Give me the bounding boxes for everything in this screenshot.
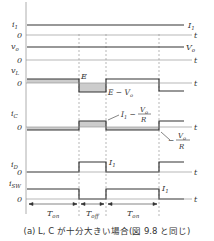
svg-text:vL: vL xyxy=(11,66,20,76)
waveform-iC: iC 0 t I1 − Vo R − Vo R xyxy=(11,106,198,151)
interval-arrows xyxy=(29,203,157,206)
svg-text:t: t xyxy=(194,195,198,204)
svg-text:I1: I1 xyxy=(161,184,169,194)
svg-text:0: 0 xyxy=(17,31,22,40)
svg-text:vo: vo xyxy=(11,42,20,52)
svg-text:Vo: Vo xyxy=(178,132,186,141)
figure-caption: (a) L, C が十分大きい場合(図 9.8 と同じ) xyxy=(0,224,214,236)
svg-text:R: R xyxy=(140,116,147,124)
i1-label: i1 xyxy=(12,20,18,30)
svg-text:−: − xyxy=(168,136,174,145)
waveform-vL: vL 0 t E E − Vo xyxy=(11,66,198,98)
interval-ton-1: Ton xyxy=(47,209,60,219)
svg-text:0: 0 xyxy=(17,168,22,177)
svg-text:I1: I1 xyxy=(187,21,195,31)
svg-text:0: 0 xyxy=(17,56,22,65)
svg-text:0: 0 xyxy=(17,79,22,88)
svg-text:iC: iC xyxy=(11,109,19,119)
svg-text:E: E xyxy=(80,72,87,81)
svg-text:t: t xyxy=(194,31,198,40)
svg-text:R: R xyxy=(178,143,185,151)
svg-text:E − Vo: E − Vo xyxy=(107,88,133,98)
waveform-i1: i1 I1 0 t xyxy=(12,20,198,40)
svg-text:0: 0 xyxy=(17,195,22,204)
svg-text:0: 0 xyxy=(17,123,22,132)
svg-text:t: t xyxy=(194,123,198,132)
waveform-iSW: iSW 0 t I1 xyxy=(9,179,198,204)
svg-text:Vo: Vo xyxy=(186,43,196,53)
svg-text:iSW: iSW xyxy=(9,179,22,189)
svg-text:Vo: Vo xyxy=(140,106,148,115)
svg-text:t: t xyxy=(194,79,198,88)
svg-text:I1 −: I1 − xyxy=(120,110,136,120)
waveform-iD: iD 0 t I1 xyxy=(11,158,198,177)
interval-toff: Toff xyxy=(86,209,100,220)
waveform-vo: vo Vo 0 t xyxy=(11,42,198,65)
svg-text:I1: I1 xyxy=(108,158,116,168)
interval-ton-2: Ton xyxy=(127,209,140,219)
waveform-diagram: i1 I1 0 t vo Vo 0 t vL 0 t E E − Vo iC 0… xyxy=(0,0,214,241)
svg-text:t: t xyxy=(194,56,198,65)
svg-text:t: t xyxy=(194,168,198,177)
